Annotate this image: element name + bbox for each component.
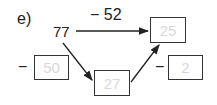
- start-value: 77: [53, 24, 70, 39]
- answer-box-top[interactable]: 25: [150, 17, 186, 43]
- answer-box-right[interactable]: 2: [168, 55, 203, 80]
- right-minus-sign: −: [155, 59, 164, 75]
- exercise-label: e): [17, 11, 31, 27]
- answer-box-left[interactable]: 50: [34, 55, 69, 80]
- left-minus-sign: −: [18, 59, 27, 75]
- top-operation-label: − 52: [90, 7, 122, 23]
- answer-box-middle[interactable]: 27: [94, 70, 130, 96]
